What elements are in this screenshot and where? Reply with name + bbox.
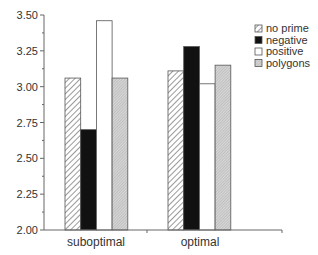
bar-suboptimal-positive [96,21,112,230]
y-tick-label: 2.75 [17,117,38,129]
y-tick-label: 2.00 [17,224,38,236]
bar-optimal-positive [199,84,215,230]
legend-label: polygons [266,57,311,69]
legend-label: negative [266,34,308,46]
bars-group [65,21,231,230]
y-tick-label: 3.50 [17,9,38,21]
legend-swatch-icon [255,37,262,44]
legend-swatch-icon [255,48,262,55]
y-tick-label: 2.25 [17,188,38,200]
legend-swatch-icon [255,25,262,32]
y-tick-label: 2.50 [17,152,38,164]
x-tick-label-suboptimal: suboptimal [67,235,125,249]
y-tick-label: 3.00 [17,81,38,93]
legend-label: positive [266,45,303,57]
bar-chart: 2.002.252.502.753.003.253.50suboptimalop… [0,0,318,255]
bar-suboptimal-no-prime [65,78,81,230]
legend-swatch-icon [255,60,262,67]
axes-group: 2.002.252.502.753.003.253.50suboptimalop… [17,9,282,249]
bar-suboptimal-negative [81,130,97,230]
x-tick-label-optimal: optimal [181,235,220,249]
legend: no primenegativepositivepolygons [255,22,311,69]
bar-optimal-no-prime [168,71,184,230]
bar-optimal-polygons [215,65,231,230]
bar-optimal-negative [184,47,200,230]
legend-label: no prime [266,22,309,34]
y-tick-label: 3.25 [17,45,38,57]
bar-suboptimal-polygons [112,78,128,230]
